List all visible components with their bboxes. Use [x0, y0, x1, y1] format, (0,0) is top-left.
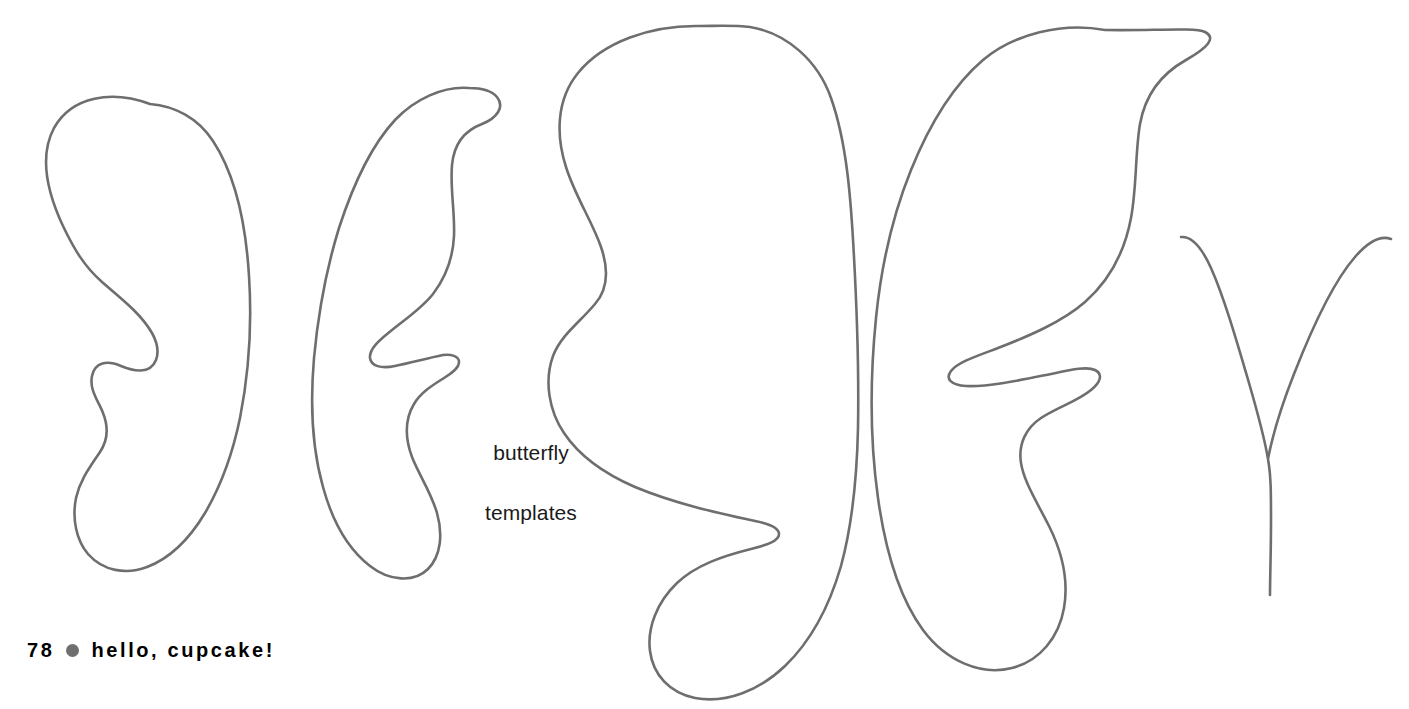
caption-line-1: butterfly — [455, 438, 607, 468]
footer-brand-text: hello, cupcake! — [91, 639, 275, 662]
antennae-template — [1181, 237, 1391, 595]
artwork-paths — [46, 26, 1391, 700]
page-footer: 78 hello, cupcake! — [27, 639, 275, 662]
large-butterfly-right-wing — [872, 28, 1210, 671]
caption-label: butterfly templates — [455, 408, 607, 558]
small-butterfly-left-wing — [46, 97, 250, 571]
caption-line-2: templates — [455, 498, 607, 528]
bullet-dot-icon — [66, 644, 79, 657]
template-page: butterfly templates 78 hello, cupcake! — [0, 0, 1409, 709]
footer-page-number: 78 — [27, 639, 54, 662]
large-butterfly-left-wing — [549, 26, 859, 700]
butterfly-template-artwork — [0, 0, 1409, 709]
